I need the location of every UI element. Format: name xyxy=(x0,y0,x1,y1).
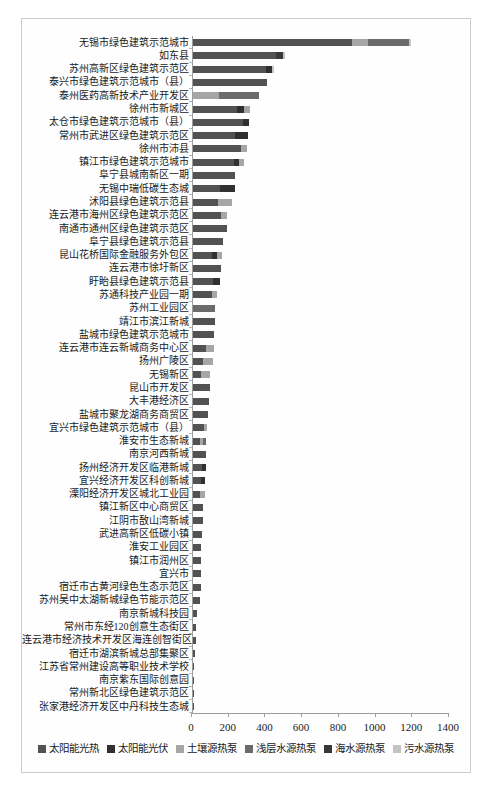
bar-segment-solar-thermal xyxy=(193,517,203,524)
bar-row: 南京新城科技园 xyxy=(22,607,449,620)
bar-area xyxy=(192,674,449,687)
bar-segment-solar-thermal xyxy=(193,106,237,113)
category-label: 宜兴市 xyxy=(22,569,192,579)
bar-area xyxy=(192,474,449,487)
stacked-bar xyxy=(193,132,248,139)
bar-segment-solar-thermal xyxy=(193,398,210,405)
bar-segment-solar-pv xyxy=(235,132,248,139)
bar-segment-ground-source-heat-pump xyxy=(206,345,213,352)
bar-segment-solar-thermal xyxy=(193,79,268,86)
bar-segment-solar-thermal xyxy=(193,225,227,232)
stacked-bar xyxy=(193,570,201,577)
bar-segment-solar-thermal xyxy=(193,650,195,657)
bar-segment-solar-thermal xyxy=(193,464,202,471)
bar-segment-solar-thermal xyxy=(193,531,202,538)
bar-row: 常州市武进区绿色建筑示范区 xyxy=(22,129,449,142)
category-label: 张家港经济开发区中丹科技生态城 xyxy=(22,702,192,712)
stacked-bar xyxy=(193,79,268,86)
category-label: 苏州吴中太湖新城绿色节能示范区 xyxy=(22,595,192,605)
bar-area xyxy=(192,541,449,554)
legend-marker-shallow-water-source-heat-pump xyxy=(245,745,253,753)
bar-row: 南京紫东国际创意园 xyxy=(22,674,449,687)
bar-segment-solar-thermal xyxy=(193,584,201,591)
bar-area xyxy=(192,448,449,461)
bar-segment-solar-thermal xyxy=(193,145,242,152)
category-label: 南通市通州区绿色建筑示范区 xyxy=(22,224,192,234)
category-label: 无锡市绿色建筑示范城市 xyxy=(22,38,192,48)
bar-area xyxy=(192,76,449,89)
category-label: 苏州工业园区 xyxy=(22,303,192,313)
bar-rows: 无锡市绿色建筑示范城市如东县苏州高新区绿色建筑示范区泰兴市绿色建筑示范城市（县）… xyxy=(22,36,449,713)
category-label: 盐城市绿色建筑示范城市 xyxy=(22,330,192,340)
legend-label: 海水源热泵 xyxy=(335,744,385,755)
category-label: 泰州医药高新技术产业开发区 xyxy=(22,91,192,101)
category-label: 宿迁市古黄河绿色生态示范区 xyxy=(22,582,192,592)
stacked-bar xyxy=(193,398,210,405)
bar-area xyxy=(192,634,449,647)
bar-area xyxy=(192,89,449,102)
stacked-bar xyxy=(193,531,202,538)
bar-segment-solar-thermal xyxy=(193,371,202,378)
bar-row: 宜兴市 xyxy=(22,567,449,580)
bar-area xyxy=(192,315,449,328)
category-label: 连云港市连云新城商务中心区 xyxy=(22,343,192,353)
bar-area xyxy=(192,36,449,49)
category-label: 昆山市开发区 xyxy=(22,383,192,393)
stacked-bar xyxy=(193,252,222,259)
category-label: 连云港市海州区绿色建筑示范区 xyxy=(22,210,192,220)
category-label: 如东县 xyxy=(22,51,192,61)
category-label: 连云港市徐圩新区 xyxy=(22,263,192,273)
stacked-bar xyxy=(193,345,214,352)
stacked-bar xyxy=(193,199,232,206)
bar-segment-sewage-source-heat-pump xyxy=(409,39,411,46)
bar-area xyxy=(192,620,449,633)
bar-row: 阜宁县城南新区一期 xyxy=(22,169,449,182)
stacked-bar xyxy=(193,371,211,378)
bar-row: 淮安市生态新城 xyxy=(22,434,449,447)
bar-area xyxy=(192,501,449,514)
bar-row: 苏通科技产业园一期 xyxy=(22,288,449,301)
bar-segment-solar-pv xyxy=(237,106,244,113)
bar-row: 镇江新区中心商贸区 xyxy=(22,501,449,514)
legend-item: 太阳能光伏 xyxy=(107,744,168,755)
bar-row: 淮安工业园区 xyxy=(22,541,449,554)
bar-row: 连云港市海州区绿色建筑示范区 xyxy=(22,209,449,222)
legend-item: 海水源热泵 xyxy=(324,744,385,755)
legend-marker-solar-thermal xyxy=(38,745,46,753)
bar-row: 扬州经济开发区临港新城 xyxy=(22,461,449,474)
stacked-bar xyxy=(193,517,203,524)
bar-row: 无锡市绿色建筑示范城市 xyxy=(22,36,449,49)
stacked-bar xyxy=(193,238,224,245)
stacked-bar xyxy=(193,39,411,46)
x-tick-mark xyxy=(338,714,339,717)
bar-row: 江阴市敔山湾新城 xyxy=(22,514,449,527)
category-label: 常州市武进区绿色建筑示范区 xyxy=(22,131,192,141)
bar-row: 沭阳县绿色建筑示范县 xyxy=(22,195,449,208)
bar-row: 宜兴经济开发区科创新城 xyxy=(22,474,449,487)
x-tick-mark xyxy=(228,714,229,717)
bar-segment-solar-thermal xyxy=(193,252,212,259)
x-axis: 0200400600800100012001400 xyxy=(191,713,449,744)
x-tick-mark xyxy=(375,714,376,717)
stacked-bar xyxy=(193,464,206,471)
bar-row: 张家港经济开发区中丹科技生态城 xyxy=(22,700,449,713)
bar-segment-solar-thermal xyxy=(193,438,200,445)
bar-segment-solar-thermal xyxy=(193,331,215,338)
bar-row: 昆山花桥国际金融服务外包区 xyxy=(22,249,449,262)
chart-frame: 无锡市绿色建筑示范城市如东县苏州高新区绿色建筑示范区泰兴市绿色建筑示范城市（县）… xyxy=(21,18,471,773)
bar-segment-sewage-source-heat-pump xyxy=(272,66,274,73)
stacked-bar xyxy=(193,318,215,325)
bar-segment-solar-thermal xyxy=(193,318,215,325)
bar-row: 靖江市滨江新城 xyxy=(22,315,449,328)
bar-row: 连云港市徐圩新区 xyxy=(22,262,449,275)
bar-row: 昆山市开发区 xyxy=(22,381,449,394)
stacked-bar xyxy=(193,650,195,657)
category-label: 沭阳县绿色建筑示范县 xyxy=(22,197,192,207)
bar-segment-solar-thermal xyxy=(193,66,266,73)
bar-area xyxy=(192,514,449,527)
bar-segment-ground-source-heat-pump xyxy=(201,371,210,378)
bar-area xyxy=(192,328,449,341)
category-label: 江苏省常州建设高等职业技术学校 xyxy=(22,662,192,672)
x-tick-mark xyxy=(448,714,449,717)
bar-segment-solar-thermal xyxy=(193,677,195,684)
